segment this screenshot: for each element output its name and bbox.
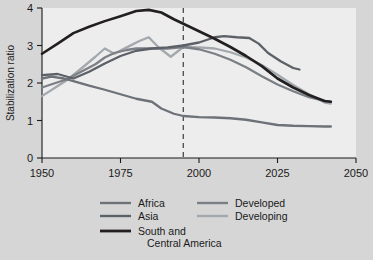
x-tick-label: 2025 [265,167,289,179]
legend-label-developed: Developed [235,197,285,209]
x-tick-label: 2000 [187,167,211,179]
legend-label-asia: Asia [138,210,159,222]
x-axis-ticks: 19501975200020252050 [30,158,368,179]
y-tick-label: 1 [27,115,33,127]
legend-label-south-and-central-america: South and [138,225,186,237]
y-tick-label: 0 [27,152,33,164]
y-tick-label: 3 [27,40,33,52]
x-tick-label: 2050 [344,167,368,179]
legend-label-africa: Africa [138,197,165,209]
x-tick-label: 1975 [108,167,132,179]
y-axis-title: Stabilization ratio [5,44,16,121]
x-tick-label: 1950 [30,167,54,179]
legend-label-developing: Developing [235,210,288,222]
y-axis-ticks: 01234 [27,2,42,164]
chart-legend: AfricaAsiaSouth andCentral AmericaDevelo… [100,197,288,249]
y-tick-label: 4 [27,2,33,14]
y-tick-label: 2 [27,77,33,89]
legend-label-south-and-central-america-line2: Central America [147,237,222,249]
stabilization-ratio-chart: 01234 19501975200020252050 Stabilization… [0,0,373,260]
